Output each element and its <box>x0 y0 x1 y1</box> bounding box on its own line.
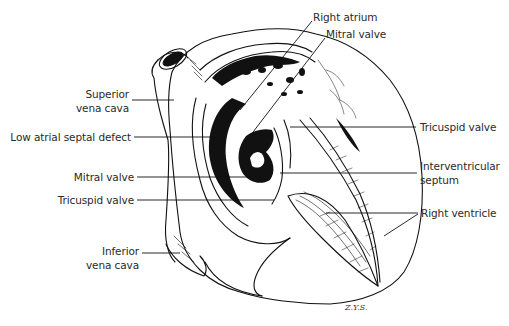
label-inferior-vena-cava-line2: vena cava <box>78 258 139 272</box>
label-interventricular-septum: Interventricular septum <box>420 159 500 187</box>
label-inferior-vena-cava-line1: Inferior <box>78 244 139 258</box>
heart-diagram: Right atrium Mitral valve Superior vena … <box>0 0 509 326</box>
label-low-atrial-septal-defect: Low atrial septal defect <box>10 130 131 144</box>
label-tricuspid-valve-left: Tricuspid valve <box>50 193 134 207</box>
inferior-vena-cava-vessel <box>166 244 206 276</box>
label-right-ventricle: Right ventricle <box>421 206 496 220</box>
leader-right-ventricle-2 <box>384 214 418 236</box>
label-right-atrium: Right atrium <box>313 10 377 24</box>
label-mitral-valve-left: Mitral valve <box>70 170 134 184</box>
label-superior-vena-cava: Superior vena cava <box>70 87 129 115</box>
superior-vena-cava-vessel <box>152 60 175 262</box>
label-superior-vena-cava-line1: Superior <box>70 87 129 101</box>
artist-signature: Z.Y.S. <box>345 303 368 312</box>
label-tricuspid-valve-top: Tricuspid valve <box>420 120 496 134</box>
right-ventricle-cut <box>288 193 378 286</box>
label-interventricular-septum-line1: Interventricular <box>420 159 500 173</box>
label-inferior-vena-cava: Inferior vena cava <box>78 244 139 272</box>
label-interventricular-septum-line2: septum <box>420 173 500 187</box>
label-superior-vena-cava-line2: vena cava <box>70 101 129 115</box>
label-mitral-valve-top: Mitral valve <box>326 27 386 41</box>
